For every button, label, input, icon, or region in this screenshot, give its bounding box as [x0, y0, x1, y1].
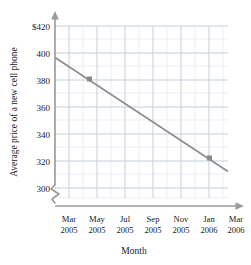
- x-tick-label-year: 2005: [116, 225, 133, 235]
- x-tick-label-month: Mar: [62, 214, 76, 224]
- x-tick-label-year: 2005: [60, 225, 77, 235]
- x-tick-label-year: 2005: [172, 225, 189, 235]
- y-tick-label: 380: [37, 76, 51, 86]
- x-tick-label-month: Jul: [120, 214, 131, 224]
- y-axis-title: Average price of a new cell phone: [9, 47, 19, 177]
- data-point-marker: [87, 77, 92, 82]
- line-chart: $420 400 380 360 340 320 300 Mar May Jul…: [0, 0, 251, 265]
- x-tick-label-year: 2006: [200, 225, 218, 235]
- x-tick-label-month: Sep: [147, 214, 160, 224]
- chart-container: $420 400 380 360 340 320 300 Mar May Jul…: [0, 0, 251, 265]
- y-axis-arrowhead: [51, 11, 59, 20]
- grid-horizontal-minor: [55, 26, 228, 198]
- x-axis-title: Month: [121, 246, 147, 256]
- x-tick-label-month: Mar: [229, 214, 243, 224]
- x-axis-arrowhead: [236, 202, 245, 210]
- y-tick-label: 300: [37, 184, 51, 194]
- x-tick-label-year: 2006: [227, 225, 245, 235]
- y-tick-label: 340: [37, 130, 51, 140]
- x-tick-label-month: Jan: [203, 214, 215, 224]
- y-tick-label: 400: [37, 49, 51, 59]
- y-tick-label: $420: [32, 22, 51, 32]
- data-line: [55, 58, 228, 172]
- x-tick-label-year: 2005: [88, 225, 105, 235]
- y-tick-label: 360: [37, 103, 51, 113]
- x-tick-label-month: Nov: [174, 214, 190, 224]
- data-point-marker: [207, 156, 212, 161]
- x-tick-label-year: 2005: [144, 225, 161, 235]
- y-tick-label: 320: [37, 157, 51, 167]
- x-tick-label-month: May: [89, 214, 105, 224]
- grid-horizontal-major: [55, 26, 228, 188]
